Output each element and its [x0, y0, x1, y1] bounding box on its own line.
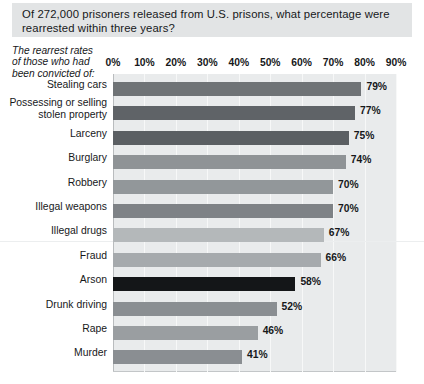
bar-category-label: Drunk driving	[0, 299, 107, 311]
bar	[113, 131, 349, 145]
bar	[113, 82, 361, 96]
bar-category-label: Illegal weapons	[0, 201, 107, 213]
bar-category-label: Stealing cars	[0, 79, 107, 91]
bar-value-label: 74%	[351, 154, 372, 165]
bar-row: Larceny75%	[0, 128, 424, 148]
bar	[113, 106, 355, 120]
bar	[113, 228, 324, 242]
title-banner: Of 272,000 prisoners released from U.S. …	[12, 3, 412, 37]
bar-value-label: 77%	[360, 105, 381, 116]
bar-row: Murder41%	[0, 347, 424, 367]
bar-value-label: 41%	[247, 349, 268, 360]
bar	[113, 204, 333, 218]
bar-category-label: Arson	[0, 274, 107, 286]
bar-category-label: Fraud	[0, 250, 107, 262]
bar	[113, 326, 258, 340]
page-title: Of 272,000 prisoners released from U.S. …	[22, 7, 402, 35]
bar-row: Possessing or selling stolen property77%	[0, 103, 424, 123]
bar-row: Drunk driving52%	[0, 299, 424, 319]
bar-row: Robbery70%	[0, 177, 424, 197]
bar	[113, 253, 321, 267]
bar-category-label: Burglary	[0, 152, 107, 164]
bar-value-label: 67%	[329, 227, 350, 238]
bar-row: Burglary74%	[0, 152, 424, 172]
bar-category-label: Murder	[0, 347, 107, 359]
bar	[113, 302, 277, 316]
bar-value-label: 70%	[338, 203, 359, 214]
bar-row: Arson58%	[0, 274, 424, 294]
bar-value-label: 58%	[300, 276, 321, 287]
bar-value-label: 66%	[326, 252, 347, 263]
bar-category-label: Robbery	[0, 177, 107, 189]
bar-category-label: Rape	[0, 323, 107, 335]
bar-category-label: Possessing or selling stolen property	[0, 97, 107, 120]
x-axis-tick-90: 90%	[376, 57, 416, 68]
bar-category-label: Larceny	[0, 128, 107, 140]
bar-value-label: 75%	[354, 130, 375, 141]
bar-category-label: Illegal drugs	[0, 225, 107, 237]
bar-row: Rape46%	[0, 323, 424, 343]
bar-row: Fraud66%	[0, 250, 424, 270]
bar-row: Illegal weapons70%	[0, 201, 424, 221]
bar-value-label: 70%	[338, 179, 359, 190]
x-axis-tick-labels: 0%10%20%30%40%50%60%70%80%90%	[0, 57, 424, 71]
bar-value-label: 46%	[263, 325, 284, 336]
bar	[113, 277, 295, 291]
bar	[113, 155, 346, 169]
x-axis-line	[113, 371, 396, 372]
bar-value-label: 79%	[366, 81, 387, 92]
bar	[113, 350, 242, 364]
bar-value-label: 52%	[282, 301, 303, 312]
bar-row: Stealing cars79%	[0, 79, 424, 99]
bar	[113, 180, 333, 194]
bar-row: Illegal drugs67%	[0, 225, 424, 245]
